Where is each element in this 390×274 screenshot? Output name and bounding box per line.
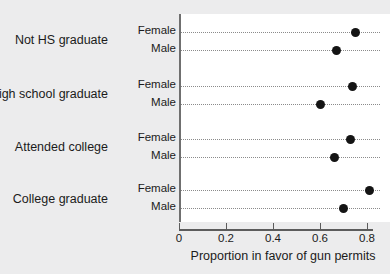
- data-point-marker: [332, 46, 341, 55]
- plot-panel: [180, 14, 390, 222]
- x-tick: [179, 223, 180, 229]
- data-point-marker: [348, 82, 357, 91]
- category-label-high-school-graduate: High school graduate: [0, 88, 108, 101]
- category-label-college-graduate: College graduate: [13, 193, 108, 206]
- group-label-female-not-hs-graduate: Female: [138, 24, 176, 36]
- group-label-male-high-school-graduate: Male: [151, 96, 176, 108]
- data-point-marker: [365, 186, 374, 195]
- x-tick-label: 0.2: [206, 232, 246, 245]
- x-axis-spine: [179, 229, 373, 231]
- group-label-male-not-hs-graduate: Male: [151, 42, 176, 54]
- row-guideline: [180, 50, 380, 51]
- data-point-marker: [330, 153, 339, 162]
- y-axis-spine: [179, 14, 181, 222]
- x-tick-label: 0.4: [253, 232, 293, 245]
- x-tick: [320, 223, 321, 229]
- group-label-female-college-graduate: Female: [138, 182, 176, 194]
- x-tick-label: 0.8: [347, 232, 387, 245]
- x-axis-title: Proportion in favor of gun permits: [180, 249, 386, 263]
- data-point-marker: [346, 135, 355, 144]
- data-point-marker: [316, 100, 325, 109]
- row-guideline: [180, 208, 380, 209]
- row-guideline: [180, 190, 380, 191]
- row-guideline: [180, 157, 380, 158]
- x-tick: [367, 223, 368, 229]
- data-point-marker: [351, 28, 360, 37]
- dot-plot-figure: Not HS graduate High school graduate Att…: [0, 0, 390, 274]
- row-guideline: [180, 104, 380, 105]
- x-tick-label: 0.6: [300, 232, 340, 245]
- group-label-female-high-school-graduate: Female: [138, 78, 176, 90]
- x-tick-label: 0: [159, 232, 199, 245]
- group-label-male-college-graduate: Male: [151, 200, 176, 212]
- category-label-attended-college: Attended college: [15, 141, 108, 154]
- category-label-not-hs-graduate: Not HS graduate: [15, 34, 108, 47]
- x-tick: [226, 223, 227, 229]
- group-label-male-attended-college: Male: [151, 149, 176, 161]
- x-tick: [273, 223, 274, 229]
- group-label-female-attended-college: Female: [138, 131, 176, 143]
- data-point-marker: [339, 204, 348, 213]
